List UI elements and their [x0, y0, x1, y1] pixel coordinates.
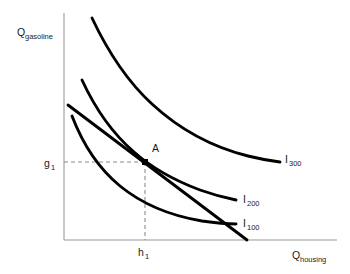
curve-label-i100-main: I: [243, 217, 246, 229]
curve-label-i300-sub: 300: [289, 159, 302, 168]
y-tick-label-g1-main: g: [44, 157, 50, 169]
curve-label-i200-main: I: [243, 193, 246, 205]
point-a-label: A: [152, 142, 159, 154]
budget-line: [68, 105, 247, 240]
point-a-marker: [142, 159, 148, 165]
x-axis-label-sub: housing: [300, 255, 326, 264]
indifference-curve-i200: [82, 80, 236, 200]
x-axis-label-main: Q: [292, 249, 300, 261]
x-tick-label-h1-main: h: [138, 246, 144, 258]
indifference-curve-diagram: A Q gasoline Q housing g 1 h 1 I 300 I 2…: [0, 0, 350, 274]
y-axis-label-sub: gasoline: [25, 32, 53, 41]
y-axis-label-main: Q: [17, 26, 25, 38]
x-tick-label-h1-sub: 1: [145, 252, 149, 261]
curve-label-i300-main: I: [285, 153, 288, 165]
curve-label-i200-sub: 200: [247, 199, 260, 208]
y-tick-label-g1-sub: 1: [51, 163, 55, 172]
curve-label-i100-sub: 100: [247, 223, 260, 232]
